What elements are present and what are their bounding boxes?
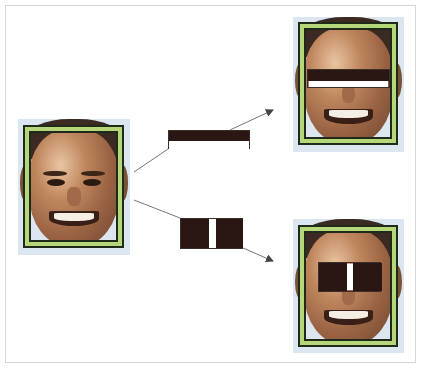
arrow-to-top-result xyxy=(134,110,273,172)
arrow-to-bottom-result xyxy=(134,200,273,261)
arrows xyxy=(0,0,421,369)
